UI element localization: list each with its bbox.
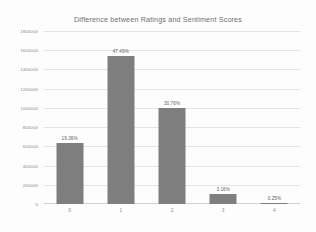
bar-value-label: 19.36% bbox=[62, 136, 78, 141]
y-tick-label: 0 bbox=[35, 202, 38, 207]
x-tick-label: 3 bbox=[222, 208, 225, 213]
bar-value-label: 0.25% bbox=[268, 196, 282, 201]
chart-title: Difference between Ratings and Sentiment… bbox=[0, 15, 316, 24]
bar[interactable] bbox=[261, 203, 288, 204]
bar-value-label: 47.49% bbox=[113, 49, 129, 54]
bar-group: 3.16% bbox=[198, 31, 249, 204]
bar-value-label: 3.16% bbox=[216, 187, 230, 192]
y-tick-label: 1400000 bbox=[20, 67, 38, 72]
x-tick-label: 1 bbox=[119, 208, 122, 213]
x-tick-label: 0 bbox=[68, 208, 71, 213]
y-tick-label: 600000 bbox=[23, 144, 38, 149]
bar-group: 19.36% bbox=[44, 31, 95, 204]
y-tick-label: 400000 bbox=[23, 163, 38, 168]
y-axis: 0200000400000600000800000100000012000001… bbox=[0, 31, 41, 204]
x-axis: 01234 bbox=[44, 206, 300, 220]
bar-value-label: 30.76% bbox=[164, 101, 180, 106]
bar[interactable] bbox=[56, 143, 83, 204]
y-tick-label: 1000000 bbox=[20, 105, 38, 110]
y-tick-label: 1800000 bbox=[20, 29, 38, 34]
bar-group: 47.49% bbox=[95, 31, 146, 204]
bar[interactable] bbox=[158, 108, 185, 204]
y-tick-label: 800000 bbox=[23, 125, 38, 130]
bar[interactable] bbox=[107, 56, 134, 204]
bar[interactable] bbox=[210, 194, 237, 204]
bar-chart-figure: Difference between Ratings and Sentiment… bbox=[0, 0, 316, 232]
x-tick-label: 2 bbox=[171, 208, 174, 213]
y-tick-label: 1200000 bbox=[20, 86, 38, 91]
bar-group: 30.76% bbox=[146, 31, 197, 204]
bars-layer: 19.36%47.49%30.76%3.16%0.25% bbox=[44, 31, 300, 204]
x-tick-label: 4 bbox=[273, 208, 276, 213]
bar-group: 0.25% bbox=[249, 31, 300, 204]
y-tick-label: 1600000 bbox=[20, 48, 38, 53]
y-tick-label: 200000 bbox=[23, 182, 38, 187]
